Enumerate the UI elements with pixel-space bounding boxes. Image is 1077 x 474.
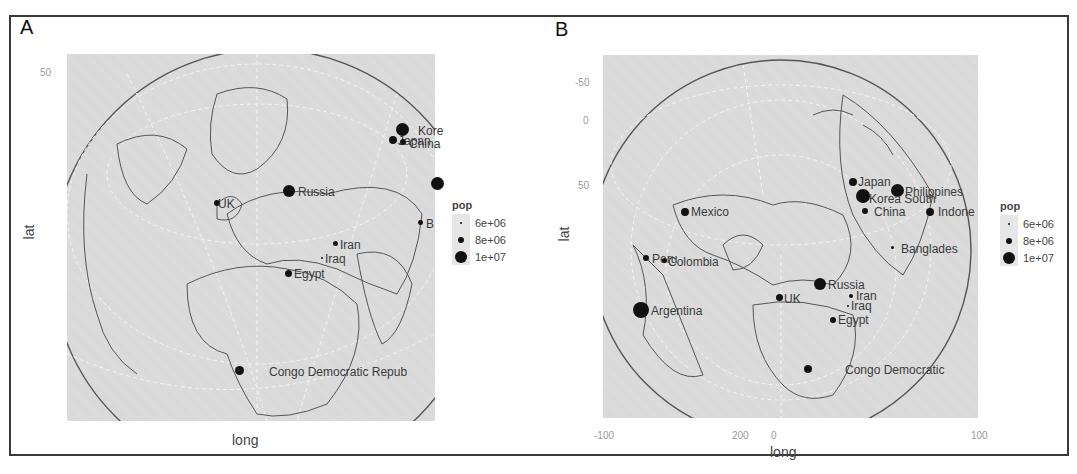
panel-b-xtick-0: 0	[771, 430, 777, 441]
point-bangladesh	[891, 246, 894, 249]
legend-dot-small-icon	[460, 222, 462, 224]
point-korea-south	[856, 189, 870, 203]
panel-b-xtick-100: 100	[971, 430, 988, 441]
point-b	[418, 220, 423, 225]
label-congo: Congo Democratic	[845, 364, 944, 376]
legend-dot-medium-icon	[458, 237, 464, 243]
point-argentina	[633, 302, 649, 318]
legend-dot-small-icon	[1008, 223, 1010, 225]
point-uk	[776, 294, 783, 301]
label-uk: UK	[218, 198, 235, 210]
panel-b-ylabel: lat	[556, 227, 572, 242]
point-colombia	[662, 258, 667, 263]
legend-dot-medium-icon	[1006, 238, 1012, 244]
label-colombia: Colombia	[668, 256, 719, 268]
label-bangladesh: Banglades	[901, 243, 958, 255]
point-egypt	[285, 270, 292, 277]
label-korea-south: Korea South	[869, 193, 936, 205]
label-egypt: Egypt	[294, 268, 325, 280]
panel-b-ytick-50: 50	[578, 180, 589, 191]
point-russia	[814, 278, 826, 290]
panel-a-legend: pop 6e+06 8e+06 1e+07	[452, 199, 506, 265]
legend-item-8e06: 8e+06	[452, 231, 506, 248]
point-japan	[389, 136, 397, 144]
label-russia: Russia	[298, 186, 335, 198]
label-iraq: Iraq	[851, 300, 872, 312]
point-egypt	[830, 317, 836, 323]
panel-b-xtick-200: 200	[732, 430, 749, 441]
point-indonesia	[926, 208, 934, 216]
point-china	[862, 208, 868, 214]
panel-b-xlabel: long	[770, 444, 796, 460]
legend-title: pop	[1000, 200, 1054, 212]
panel-b-ytick-neg50: -50	[575, 77, 589, 88]
label-congo: Congo Democratic Repub	[269, 366, 407, 378]
panel-a-ytick-50: 50	[40, 67, 51, 78]
panel-b-legend: pop 6e+06 8e+06 1e+07	[1000, 200, 1054, 266]
label-uk: UK	[784, 293, 801, 305]
panel-a-ylabel: lat	[21, 225, 37, 240]
panel-a-xlabel: long	[232, 432, 258, 448]
point-unlabeled-east	[431, 177, 444, 190]
label-japan: Japan	[858, 176, 891, 188]
panel-b-ytick-0: 0	[583, 115, 589, 126]
legend-title: pop	[452, 199, 506, 211]
label-b: B	[426, 218, 434, 230]
legend-item-6e06: 6e+06	[452, 214, 506, 231]
point-mexico	[681, 208, 689, 216]
panel-a-letter: A	[20, 16, 33, 39]
legend-dot-large-icon	[455, 251, 467, 263]
legend-item-1e07: 1e+07	[452, 248, 506, 265]
point-peru	[643, 255, 649, 261]
point-korea	[396, 123, 409, 136]
point-iraq	[321, 257, 323, 259]
point-iran	[849, 294, 853, 298]
point-china	[400, 139, 406, 145]
label-mexico: Mexico	[691, 206, 729, 218]
label-indonesia: Indone	[938, 206, 975, 218]
label-iran: Iran	[340, 239, 361, 251]
legend-item-1e07: 1e+07	[1000, 249, 1054, 266]
label-china: China	[874, 206, 905, 218]
panel-b-xtick-neg100: -100	[594, 430, 614, 441]
panel-b-letter: B	[555, 18, 568, 41]
point-iran	[333, 241, 338, 246]
point-congo	[235, 366, 244, 375]
point-iraq	[847, 305, 849, 307]
label-korea: Kore	[418, 125, 443, 137]
legend-dot-large-icon	[1003, 252, 1015, 264]
point-congo	[804, 365, 812, 373]
point-russia	[283, 185, 295, 197]
label-iraq: Iraq	[325, 253, 346, 265]
point-japan	[849, 178, 857, 186]
label-china: China	[409, 138, 440, 150]
legend-item-8e06: 8e+06	[1000, 232, 1054, 249]
label-argentina: Argentina	[651, 305, 702, 317]
label-egypt: Egypt	[838, 314, 869, 326]
legend-item-6e06: 6e+06	[1000, 215, 1054, 232]
